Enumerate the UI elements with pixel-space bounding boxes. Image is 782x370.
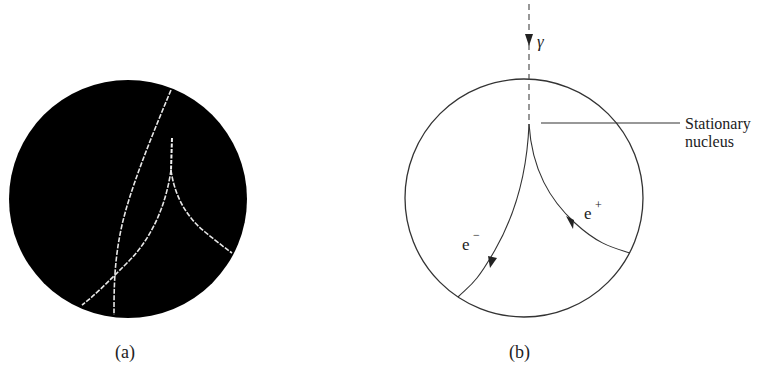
panel-a-photo: [9, 80, 247, 318]
electron-sign: −: [473, 228, 480, 242]
electron-path: [458, 124, 529, 297]
caption-a: (a): [115, 342, 135, 363]
electron-label: e: [462, 235, 470, 254]
caption-b: (b): [509, 342, 530, 363]
photon-arrow-icon: [525, 34, 533, 46]
positron-label: e: [584, 204, 592, 223]
photon-label: γ: [537, 32, 545, 51]
electron-arrow-icon: [488, 256, 497, 268]
positron-sign: +: [595, 198, 602, 212]
figure: (a) γ Stationary nucleus e − e + (b): [0, 0, 782, 370]
chamber-outline: [405, 79, 643, 317]
chamber-photo-disc: [9, 80, 247, 318]
nucleus-label-line2: nucleus: [685, 133, 734, 150]
nucleus-label-line1: Stationary: [685, 115, 751, 133]
positron-path: [529, 124, 630, 253]
